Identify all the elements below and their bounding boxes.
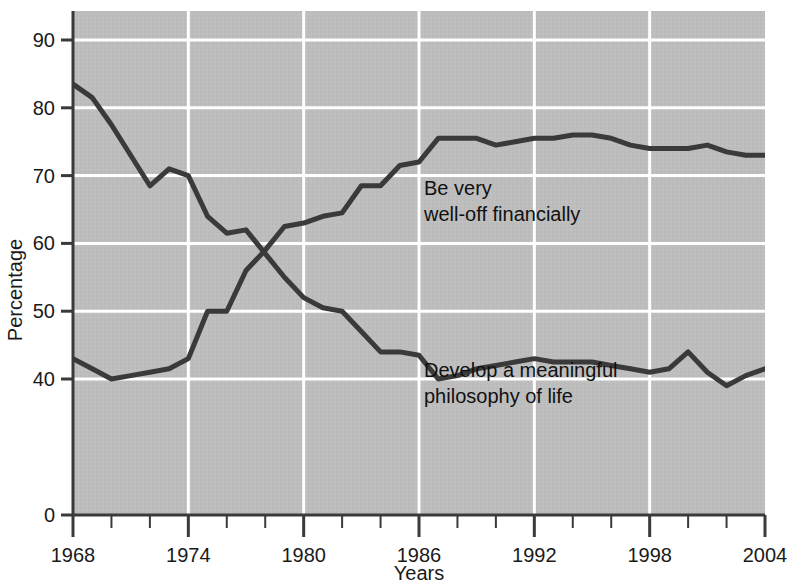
y-tick-label: 90 — [33, 29, 55, 51]
x-tick-label: 2004 — [743, 544, 788, 566]
series-label-philosophy-line1: Develop a meaningful — [424, 359, 617, 381]
y-tick-label: 0 — [44, 504, 55, 526]
series-label-philosophy-line2: philosophy of life — [424, 385, 573, 407]
x-tick-label: 1998 — [627, 544, 672, 566]
x-axis-title: Years — [394, 562, 444, 584]
x-tick-label: 1968 — [51, 544, 96, 566]
y-tick-label: 80 — [33, 97, 55, 119]
y-axis-title: Percentage — [4, 239, 26, 341]
line-chart: 0405060708090 19681974198019861992199820… — [0, 0, 801, 587]
y-tick-label: 50 — [33, 300, 55, 322]
y-tick-label: 70 — [33, 165, 55, 187]
x-tick-label: 1980 — [281, 544, 326, 566]
series-label-well-off-line1: Be very — [424, 177, 492, 199]
y-tick-label: 40 — [33, 368, 55, 390]
y-tick-label: 60 — [33, 232, 55, 254]
x-tick-label: 1992 — [512, 544, 557, 566]
chart-container: 0405060708090 19681974198019861992199820… — [0, 0, 801, 587]
series-label-well-off-line2: well-off financially — [423, 203, 580, 225]
x-tick-label: 1974 — [166, 544, 211, 566]
